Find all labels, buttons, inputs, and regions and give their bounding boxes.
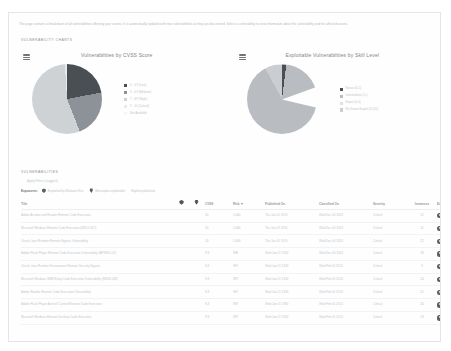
column-header-risk[interactable]: Risk: [233, 197, 265, 209]
table-row[interactable]: Oracle Java Runtime Remote Bypass Vulner…: [21, 235, 441, 248]
cell-exposures: Malware: [437, 235, 441, 248]
cell-risk: 1,000: [233, 235, 265, 248]
table-header-row: Title CVSS Risk Published On Classified …: [21, 197, 441, 209]
column-header-risk-label: Risk: [233, 202, 240, 206]
cell-title[interactable]: Microsoft Windows Remote Code Execution …: [21, 222, 175, 235]
column-header-title[interactable]: Title: [21, 197, 175, 209]
cell-malware: [175, 260, 190, 273]
cell-title[interactable]: Adobe Flash Player ActiveX Control Remot…: [21, 299, 175, 312]
cell-published: Wed Jan 01 1992: [265, 260, 319, 273]
table-row[interactable]: Adobe Acrobat and Reader Remote Code Exe…: [21, 209, 441, 222]
cell-title[interactable]: Adobe Acrobat and Reader Remote Code Exe…: [21, 209, 175, 222]
column-header-instances[interactable]: Instances: [409, 197, 437, 209]
table-row[interactable]: Adobe Reader Remote Code Execution Vulne…: [21, 286, 441, 299]
cell-malware: [175, 299, 190, 312]
filter-chip-exploit-published[interactable]: Exploit published: [131, 189, 154, 193]
cell-severity: Critical: [373, 299, 409, 312]
cell-published: Thu Jan 01 1970: [265, 209, 319, 222]
cell-exploit: [190, 311, 205, 324]
legend-item[interactable]: Intermediate (1+): [340, 93, 379, 99]
column-header-classified[interactable]: Classified On: [319, 197, 373, 209]
cell-title[interactable]: Oracle Java Runtime Environment Remote S…: [21, 260, 175, 273]
cell-instances: 21: [409, 286, 437, 299]
cell-instances: 16: [409, 299, 437, 312]
page-description: This page contains a breakdown of all vu…: [19, 22, 430, 26]
cell-classified: Wed Dec 04 2013: [319, 248, 373, 261]
column-header-cvss[interactable]: CVSS: [205, 197, 233, 209]
cell-exposures: Malware: [437, 222, 441, 235]
cell-malware: [175, 273, 190, 286]
cell-published: Wed Jan 01 1992: [265, 286, 319, 299]
cell-published: Wed Jan 01 1992: [265, 311, 319, 324]
malware-kit-icon: [437, 277, 441, 282]
cell-malware: [175, 235, 190, 248]
exposure-filter-bar: Exposures: Exploited by Malware Kits Met…: [21, 188, 440, 193]
table-row[interactable]: Adobe Flash Player ActiveX Control Remot…: [21, 299, 441, 312]
apply-filters-link[interactable]: Apply Filters (suggest): [27, 179, 440, 183]
cell-title[interactable]: Oracle Java Runtime Remote Bypass Vulner…: [21, 235, 175, 248]
cell-classified: Wed Dec 04 2013: [319, 222, 373, 235]
legend-item[interactable]: Expert (0-0): [340, 100, 379, 106]
cell-malware: [175, 311, 190, 324]
cell-severity: Critical: [373, 222, 409, 235]
table-row[interactable]: Microsoft Windows Remote Desktop Code Ex…: [21, 311, 441, 324]
legend-item[interactable]: 4 - 6.9 (Medium): [124, 90, 151, 96]
column-header-exposures[interactable]: Exposures: [437, 197, 441, 209]
cell-exploit: [190, 209, 205, 222]
chart-panel-cvss: Vulnerabilities by CVSS Score 0 - 3.9 (L…: [9, 48, 225, 158]
cell-exploit: [190, 260, 205, 273]
legend-item[interactable]: 7 - 8.9 (High): [124, 97, 151, 103]
cell-classified: Wed Dec 04 2013: [319, 235, 373, 248]
legend-item[interactable]: Not Available: [124, 111, 151, 117]
cell-instances: 22: [409, 235, 437, 248]
cell-exposures: Malware: [437, 311, 441, 324]
malware-kit-icon: [437, 315, 441, 320]
legend-item[interactable]: No Known Exploit (4,131): [340, 107, 379, 113]
cell-title[interactable]: Adobe Reader Remote Code Execution Vulne…: [21, 286, 175, 299]
column-header-published[interactable]: Published On: [265, 197, 319, 209]
cell-cvss: 9.3: [205, 286, 233, 299]
hamburger-menu-icon[interactable]: [23, 54, 30, 60]
chart-title-cvss: Vulnerabilities by CVSS Score: [9, 48, 225, 58]
column-header-malware[interactable]: [175, 197, 190, 209]
legend-swatch: [124, 91, 127, 94]
legend-swatch: [124, 105, 127, 108]
table-row[interactable]: Microsoft Windows SMB Relay Code Executi…: [21, 273, 441, 286]
malware-kit-icon: [437, 239, 441, 244]
cell-title[interactable]: Adobe Flash Player Remote Code Execution…: [21, 248, 175, 261]
table-row[interactable]: Microsoft Windows Remote Code Execution …: [21, 222, 441, 235]
cell-classified: Wed Feb 05 2014: [319, 299, 373, 312]
cell-published: Wed Jan 01 1992: [265, 273, 319, 286]
cell-cvss: 9.3: [205, 248, 233, 261]
table-row[interactable]: Adobe Flash Player Remote Code Execution…: [21, 248, 441, 261]
cell-malware: [175, 286, 190, 299]
filter-chip-metasploit[interactable]: Metasploit-exploitable: [89, 188, 125, 193]
cell-severity: Critical: [373, 260, 409, 273]
legend-item[interactable]: Novice (0-1): [340, 86, 379, 92]
cell-exploit: [190, 222, 205, 235]
exposures-label: Exposures:: [21, 189, 38, 193]
cell-title[interactable]: Microsoft Windows Remote Desktop Code Ex…: [21, 311, 175, 324]
hamburger-menu-icon[interactable]: [239, 54, 246, 60]
cell-severity: Critical: [373, 286, 409, 299]
chart-legend-skill: Novice (0-1) Intermediate (1+) Expert (0…: [340, 84, 379, 114]
cell-severity: Critical: [373, 209, 409, 222]
chart-title-skill: Exploitable Vulnerabilities by Skill Lev…: [225, 48, 441, 58]
legend-swatch: [340, 88, 343, 91]
legend-item[interactable]: 9 - 10 (Critical): [124, 104, 151, 110]
filter-chip-malware-kits[interactable]: Exploited by Malware Kits: [42, 188, 83, 193]
table-row[interactable]: Oracle Java Runtime Environment Remote S…: [21, 260, 441, 273]
column-header-severity[interactable]: Severity: [373, 197, 409, 209]
metasploit-icon: [194, 200, 198, 205]
cell-exposures: Malware: [437, 286, 441, 299]
cell-malware: [175, 209, 190, 222]
cell-instances: 9: [409, 260, 437, 273]
cell-cvss: 10: [205, 235, 233, 248]
cell-exploit: [190, 299, 205, 312]
legend-label: Expert (0-0): [345, 100, 360, 106]
chart-legend-cvss: 0 - 3.9 (Low) 4 - 6.9 (Medium) 7 - 8.9 (…: [124, 81, 151, 118]
cell-title[interactable]: Microsoft Windows SMB Relay Code Executi…: [21, 273, 175, 286]
legend-item[interactable]: 0 - 3.9 (Low): [124, 83, 151, 89]
column-header-exploit[interactable]: [190, 197, 205, 209]
cell-exposures: Malware: [437, 273, 441, 286]
